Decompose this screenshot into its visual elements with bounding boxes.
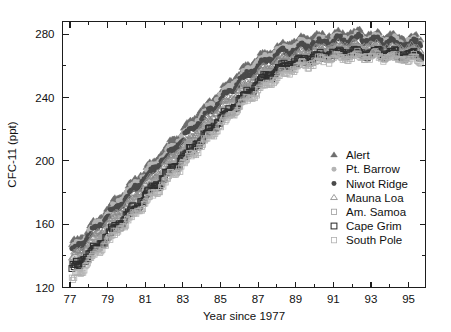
x-tick-label: 87 <box>252 293 265 305</box>
legend-label: Mauna Loa <box>346 192 404 204</box>
legend-item-cape-grim[interactable]: Cape Grim <box>331 220 402 232</box>
chart-canvas: 77798183858789919395120160200240280Year … <box>0 0 451 332</box>
legend-item-alert[interactable]: Alert <box>331 149 371 161</box>
legend-item-am-samoa[interactable]: Am. Samoa <box>331 206 406 218</box>
legend-label: Am. Samoa <box>346 206 407 218</box>
legend-item-niwot-ridge[interactable]: Niwot Ridge <box>332 178 408 190</box>
legend-label: Pt. Barrow <box>346 163 400 175</box>
legend-label: Cape Grim <box>346 220 402 232</box>
plot-frame <box>63 22 426 288</box>
x-tick-label: 95 <box>402 293 415 305</box>
x-tick-label: 93 <box>365 293 378 305</box>
x-tick-label: 85 <box>214 293 227 305</box>
legend-layer: AlertPt. BarrowNiwot RidgeMauna LoaAm. S… <box>331 149 408 246</box>
x-tick-label: 83 <box>176 293 189 305</box>
y-tick-label: 120 <box>35 282 54 294</box>
x-tick-label: 79 <box>101 293 114 305</box>
legend-item-pt-barrow[interactable]: Pt. Barrow <box>332 163 401 175</box>
y-axis-title: CFC-11 (ppt) <box>6 121 18 187</box>
legend-item-south-pole[interactable]: South Pole <box>331 234 402 246</box>
legend-item-mauna-loa[interactable]: Mauna Loa <box>331 192 405 204</box>
x-tick-label: 91 <box>327 293 340 305</box>
y-tick-label: 200 <box>35 155 54 167</box>
x-tick-label: 77 <box>64 293 77 305</box>
x-tick-label: 89 <box>289 293 302 305</box>
y-tick-label: 280 <box>35 28 54 40</box>
axes-layer <box>63 22 426 288</box>
x-tick-label: 81 <box>139 293 152 305</box>
y-tick-label: 240 <box>35 92 54 104</box>
y-tick-label: 160 <box>35 218 54 230</box>
legend-label: Niwot Ridge <box>346 178 408 190</box>
cfc11-timeseries-figure: 77798183858789919395120160200240280Year … <box>0 0 451 332</box>
legend-label: Alert <box>346 149 370 161</box>
x-axis-title: Year since 1977 <box>203 310 285 322</box>
legend-label: South Pole <box>346 234 402 246</box>
